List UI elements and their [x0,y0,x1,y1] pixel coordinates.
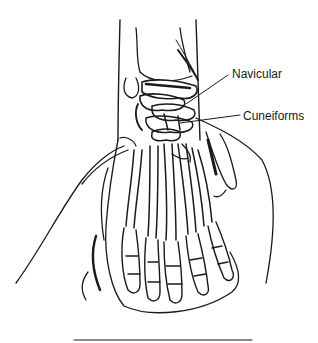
talus-region [140,80,197,111]
left-hand [16,137,136,300]
right-hand [172,118,273,283]
metatarsals [126,144,212,240]
foot-skeleton-drawing [0,0,318,343]
cuneiforms-label: Cuneiforms [243,110,304,122]
navicular-label: Navicular [232,68,282,80]
anatomy-illustration: Navicular Cuneiforms [0,0,318,343]
label-leaders [180,75,240,123]
phalanges [122,222,233,303]
